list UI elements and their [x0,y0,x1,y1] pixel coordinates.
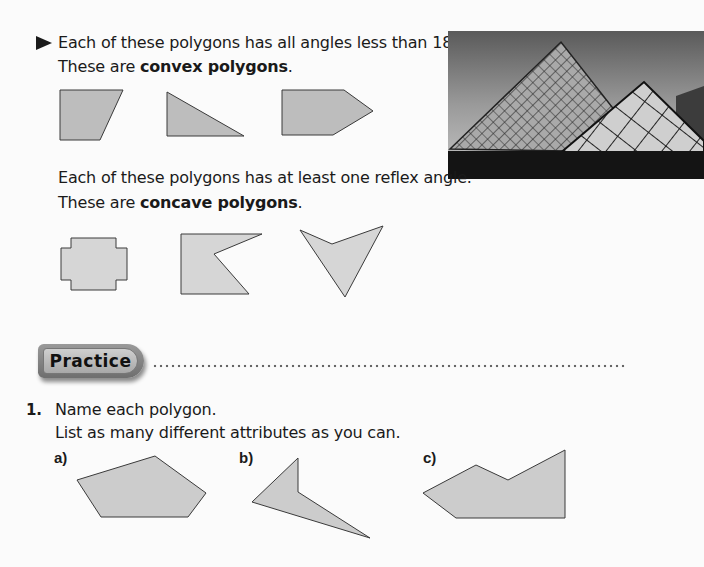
concave-line1: Each of these polygons has at least one … [58,168,472,187]
concave-shapes [61,226,383,297]
polygon-figures [0,0,704,567]
dotted-divider [152,364,626,368]
concave-notched-quad [181,234,262,294]
practice-shape-a-pentagon [77,456,206,517]
part-c-label: c) [423,449,436,466]
part-a-label: a) [54,449,67,466]
question-line2: List as many different attributes as you… [55,422,400,444]
part-b-label: b) [239,449,253,466]
practice-shapes [77,450,565,538]
concave-cross [61,238,127,290]
practice-shape-b-concave-quad [252,458,370,538]
practice-badge-label: Practice [43,348,138,374]
concave-prefix: These are [58,193,140,212]
convex-trapezoid [60,90,123,140]
concave-term: concave polygons [140,193,298,212]
convex-pentagon [282,90,373,135]
question-1: 1. [26,399,42,421]
convex-shapes [60,90,373,140]
concave-description: Each of these polygons has at least one … [58,167,472,189]
question-line1: Name each polygon. [55,399,216,421]
concave-suffix: . [298,193,303,212]
practice-shape-c-hexagon [423,450,565,518]
concave-arrowhead [300,226,383,297]
convex-right-triangle [167,92,244,136]
concave-definition: These are concave polygons. [58,192,302,214]
question-number: 1. [26,401,42,419]
practice-badge: Practice [38,344,144,378]
